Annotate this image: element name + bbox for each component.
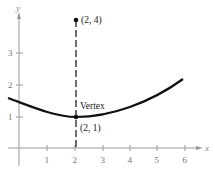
point-2-4-label: (2, 4) [81,15,102,26]
curve [8,79,183,117]
chart: y x 1 2 3 4 5 6 1 2 3 (2, 4) Vertex (2, … [0,0,215,175]
x-tick-label-3: 3 [101,155,106,165]
x-tick-label-1: 1 [45,155,50,165]
x-tick-label-4: 4 [128,155,133,165]
x-tick-label-6: 6 [183,155,188,165]
x-axis-label: x [204,143,209,153]
vertex-coord-label: (2, 1) [80,123,101,134]
x-tick-label-2: 2 [73,155,78,165]
y-axis-arrow-icon [17,12,21,19]
x-tick-label-5: 5 [155,155,160,165]
y-tick-label-3: 3 [8,48,13,58]
y-tick-label-1: 1 [8,112,13,122]
point-2-4 [74,18,79,23]
y-axis-label: y [15,3,20,13]
vertex-label: Vertex [80,101,105,111]
vertex-point [74,115,79,120]
x-axis-arrow-icon [196,146,203,150]
y-tick-label-2: 2 [8,80,13,90]
